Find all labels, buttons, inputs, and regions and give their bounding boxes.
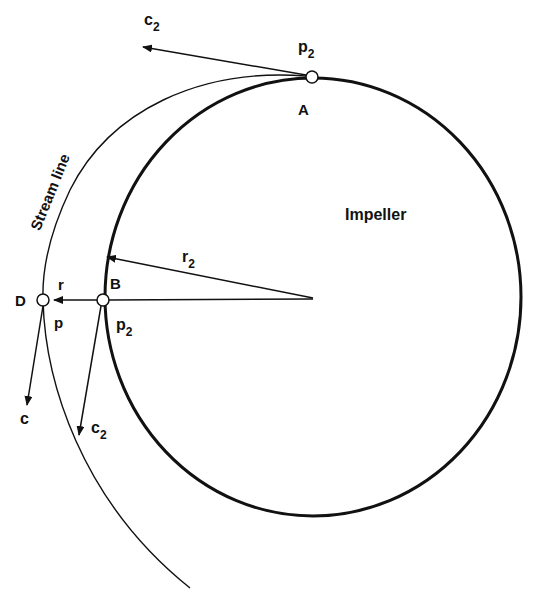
pressure-p2-top-base: p xyxy=(298,38,308,55)
pressure-p2-top-label: p2 xyxy=(298,38,315,61)
velocity-c-arrow xyxy=(27,306,43,405)
velocity-c2-top-arrow xyxy=(143,47,306,75)
pressure-p-d-label: p xyxy=(54,314,63,331)
impeller-label: Impeller xyxy=(345,206,406,223)
velocity-c2-b-label: c2 xyxy=(91,419,107,442)
pressure-p2-b-sub: 2 xyxy=(126,325,133,339)
velocity-c2-b-arrow xyxy=(79,306,101,435)
radius-r2-label: r2 xyxy=(182,248,195,271)
pressure-p2-b-base: p xyxy=(116,316,126,333)
velocity-c2-b-base: c xyxy=(91,419,100,436)
pressure-p2-top-sub: 2 xyxy=(308,47,315,61)
point-b-label: B xyxy=(110,275,121,292)
radius-r-label: r xyxy=(58,276,64,293)
impeller-circle xyxy=(105,78,521,516)
radius-r2-arrow xyxy=(107,257,313,298)
radius-horizontal-line xyxy=(108,299,313,300)
velocity-c2-top-label: c2 xyxy=(144,11,160,34)
node-d xyxy=(37,294,49,306)
point-a-label: A xyxy=(298,101,309,118)
node-b xyxy=(97,294,109,306)
pressure-p2-b-label: p2 xyxy=(116,316,133,339)
velocity-c-label: c xyxy=(20,410,29,427)
impeller-diagram: Impeller Stream line A B D p2 c2 r2 r p … xyxy=(0,0,536,604)
stream-line-label: Stream line xyxy=(27,151,73,232)
velocity-c2-b-sub: 2 xyxy=(100,428,107,442)
point-d-label: D xyxy=(15,292,26,309)
velocity-c2-top-sub: 2 xyxy=(153,20,160,34)
radius-r2-sub: 2 xyxy=(188,257,195,271)
velocity-c2-top-base: c xyxy=(144,11,153,28)
node-a xyxy=(306,71,318,83)
